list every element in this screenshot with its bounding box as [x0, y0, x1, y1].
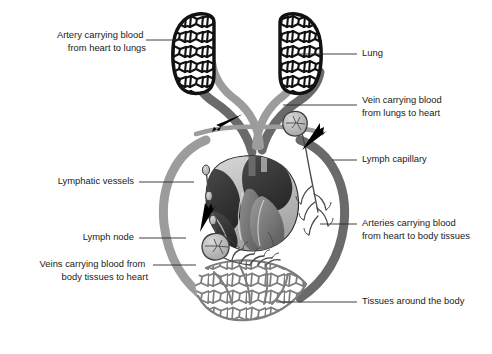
label-veins-from-body: Veins carrying blood from body tissues t…	[40, 258, 149, 282]
label-arteries-to-body-line-2: from heart to body tissues	[362, 230, 470, 241]
label-tissues-around-body: Tissues around the body	[362, 295, 465, 306]
label-lung: Lung	[362, 47, 383, 58]
label-lymph-capillary-line-1: Lymph capillary	[362, 153, 427, 164]
label-lymphatic-vessels: Lymphatic vessels	[58, 175, 135, 186]
diagram-canvas: Artery carrying blood from heart to lung…	[0, 0, 492, 354]
label-vein-from-lungs-line-2: from lungs to heart	[362, 107, 441, 118]
label-lymph-node: Lymph node	[83, 231, 134, 242]
lymph-node-right	[283, 111, 307, 136]
label-veins-from-body-line-1: Veins carrying blood from	[40, 258, 146, 269]
lung-left	[168, 10, 222, 100]
label-veins-from-body-line-2: body tissues to heart	[61, 271, 148, 282]
tissue-capillary-bed	[190, 255, 315, 325]
label-lymph-capillary: Lymph capillary	[362, 153, 427, 164]
label-tissues-around-body-line-1: Tissues around the body	[362, 295, 465, 306]
label-lymph-node-line-1: Lymph node	[83, 231, 134, 242]
label-vein-from-lungs: Vein carrying blood from lungs to heart	[362, 94, 444, 118]
label-artery-to-lungs: Artery carrying blood from heart to lung…	[57, 29, 146, 53]
label-artery-to-lungs-line-1: Artery carrying blood	[57, 29, 144, 40]
lymph-node-left	[202, 233, 229, 260]
lymph-capillary-right	[296, 182, 333, 235]
label-lymphatic-vessels-line-1: Lymphatic vessels	[58, 175, 135, 186]
label-artery-to-lungs-line-2: from heart to lungs	[68, 42, 146, 53]
artery-to-body-tissues-vessel	[300, 140, 345, 298]
circulatory-system-diagram: Artery carrying blood from heart to lung…	[0, 0, 492, 354]
label-arteries-to-body-line-1: Arteries carrying blood	[362, 217, 456, 228]
label-arteries-to-body: Arteries carrying blood from heart to bo…	[362, 217, 470, 241]
label-lung-line-1: Lung	[362, 47, 383, 58]
label-vein-from-lungs-line-1: Vein carrying blood	[362, 94, 442, 105]
